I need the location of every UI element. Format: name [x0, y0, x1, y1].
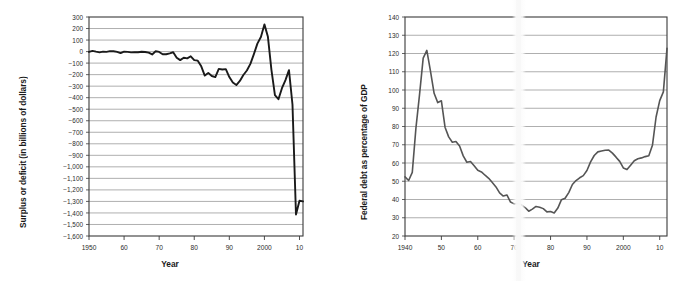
y-tick-label: 90 [392, 105, 400, 112]
y-tick-label: −500 [69, 106, 84, 113]
y-tick-label: 120 [388, 50, 399, 57]
x-tick-label: 1950 [82, 244, 97, 251]
y-tick-label: −900 [69, 152, 84, 159]
y-tick-label: 20 [392, 233, 400, 240]
y-tick-label: 130 [388, 32, 399, 39]
x-tick-label: 1940 [398, 244, 413, 251]
y-tick-label: 60 [392, 160, 400, 167]
y-tick-label: −700 [69, 129, 84, 136]
deficit-chart-panel: Surplus or deficit (in billions of dolla… [0, 0, 341, 281]
y-tick-label: −1,100 [63, 175, 83, 182]
deficit-chart-plot: 3002001000−100−200−300−400−500−600−700−8… [0, 0, 341, 281]
x-tick-label: 80 [191, 244, 199, 251]
x-tick-label: 10 [296, 244, 304, 251]
debt-chart-plot: 1401301201101009080706050403020194050607… [341, 0, 682, 281]
y-tick-label: −1,500 [63, 221, 83, 228]
y-tick-label: 140 [388, 14, 399, 21]
y-tick-label: 70 [392, 141, 400, 148]
y-tick-label: −100 [69, 60, 84, 67]
x-tick-label: 50 [438, 244, 446, 251]
x-tick-label: 2000 [257, 244, 272, 251]
y-tick-label: 110 [389, 68, 400, 75]
y-tick-label: −800 [69, 140, 84, 147]
y-tick-label: 100 [72, 37, 83, 44]
x-tick-label: 90 [226, 244, 234, 251]
y-tick-label: 50 [392, 178, 400, 185]
y-tick-label: 80 [392, 123, 400, 130]
y-tick-label: −1,200 [63, 186, 83, 193]
x-tick-label: 70 [510, 244, 518, 251]
x-tick-label: 60 [120, 244, 128, 251]
y-tick-label: 300 [72, 14, 83, 21]
y-tick-label: −200 [69, 71, 84, 78]
y-tick-label: −300 [69, 83, 84, 90]
plot-background [89, 17, 303, 236]
y-tick-label: −1,600 [63, 233, 83, 240]
y-tick-label: 0 [79, 48, 83, 55]
x-tick-label: 2000 [616, 244, 631, 251]
y-tick-label: 40 [392, 196, 400, 203]
y-tick-label: −1,400 [63, 210, 83, 217]
y-tick-label: −400 [69, 94, 84, 101]
debt-chart-panel: Federal debt as percentage of GDP Year 1… [341, 0, 682, 281]
x-tick-label: 60 [474, 244, 482, 251]
x-tick-label: 80 [547, 244, 555, 251]
y-tick-label: −1,300 [63, 198, 83, 205]
y-tick-label: 200 [72, 25, 83, 32]
y-tick-label: 100 [388, 87, 399, 94]
x-tick-label: 70 [155, 244, 163, 251]
y-tick-label: 30 [392, 214, 400, 221]
y-tick-label: −600 [69, 117, 84, 124]
two-chart-figure: Surplus or deficit (in billions of dolla… [0, 0, 682, 281]
x-tick-label: 90 [583, 244, 591, 251]
y-tick-label: −1,000 [63, 163, 83, 170]
x-tick-label: 10 [656, 244, 664, 251]
